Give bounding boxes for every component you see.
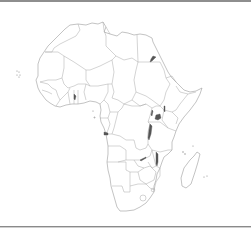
- sao-tome: [94, 117, 95, 118]
- mauritius: [203, 176, 204, 177]
- madagascar: [181, 152, 200, 188]
- cape-verde-islands: [16, 70, 17, 71]
- africa-map: [0, 0, 251, 237]
- lake-turkana: [164, 106, 165, 112]
- comoros: [182, 151, 183, 152]
- bioko: [92, 110, 93, 111]
- lake-malawi: [156, 152, 158, 166]
- africa-coastline: [36, 22, 202, 211]
- bottom-rule-shadow: [0, 227, 251, 228]
- seychelles: [192, 145, 193, 146]
